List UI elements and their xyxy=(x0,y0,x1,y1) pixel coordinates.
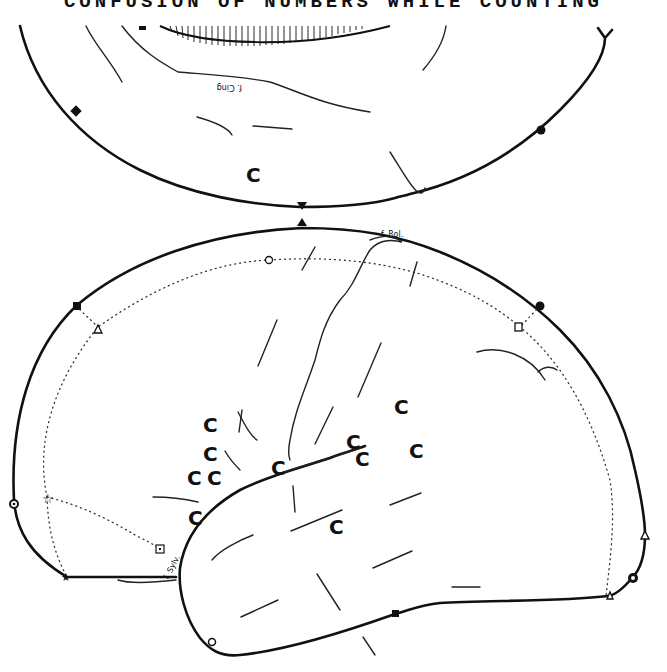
lateral-sulcus-6 xyxy=(238,412,257,440)
cingulate-fissure xyxy=(122,26,370,112)
fornix-mark xyxy=(139,26,146,30)
medial-outline xyxy=(20,26,612,207)
dotted-boundary-frontal xyxy=(47,497,160,549)
stimulation-point-c: C xyxy=(203,413,218,437)
filled-diamond-marker xyxy=(70,105,81,116)
medial-sulcus-1 xyxy=(86,26,122,82)
cingulate-fissure-label: f. Cing xyxy=(217,83,242,92)
open-circle-marker-bottom xyxy=(209,639,216,646)
star-circle-center xyxy=(631,576,635,580)
small-triangle-marker xyxy=(607,592,613,599)
medial-sulcus-2 xyxy=(423,26,446,70)
lateral-sulcus-7 xyxy=(225,451,240,470)
filled-triangle-up-marker xyxy=(297,218,307,226)
open-circle-marker xyxy=(266,257,273,264)
stimulation-point-c: C xyxy=(188,506,203,530)
rolandic-fissure-label: f. Rol. xyxy=(381,230,403,239)
open-square-marker xyxy=(515,323,522,331)
corpus-callosum-hatching xyxy=(160,26,390,46)
stimulation-point-c: C xyxy=(187,466,202,490)
stimulation-point-c: C xyxy=(246,163,261,187)
open-star-marker: ☆ xyxy=(42,491,54,506)
stimulation-point-c: C xyxy=(409,439,424,463)
lateral-sulcus-8 xyxy=(315,407,333,444)
lateral-sulcus-2 xyxy=(410,262,417,286)
dotted-square-center xyxy=(159,548,161,550)
lateral-hemisphere-view: f. Rol. f. Sylv. xyxy=(10,218,649,655)
stimulation-point-c: C xyxy=(355,447,370,471)
lateral-sulcus-3 xyxy=(258,320,277,366)
filled-circle-marker-lateral xyxy=(536,302,545,311)
filled-square-marker xyxy=(73,302,81,310)
temporal-sulcus-1 xyxy=(390,493,421,505)
medial-hemisphere-view: f. Cing C xyxy=(20,26,612,210)
temporal-sulcus-4 xyxy=(212,535,253,560)
medial-sulcus-4 xyxy=(253,126,292,129)
rolandic-fissure xyxy=(289,236,403,460)
lateral-outline-upper xyxy=(14,228,645,596)
filled-small-square-marker xyxy=(392,610,399,617)
stimulation-point-c: C xyxy=(329,515,344,539)
medial-sulcus-3 xyxy=(197,117,232,135)
stimulation-point-c: C xyxy=(203,442,218,466)
stimulation-point-c: C xyxy=(271,456,286,480)
temporal-sulcus-9 xyxy=(363,637,375,655)
stimulation-point-c: C xyxy=(207,466,222,490)
dotted-boundary-upper xyxy=(44,259,613,596)
brain-map-diagram: f. Cing C f. Rol. f. Sylv. xyxy=(0,0,667,672)
medial-parieto-occipital xyxy=(390,152,425,193)
lateral-sulcus-4 xyxy=(358,343,381,397)
lateral-outline-bottom xyxy=(180,446,608,655)
temporal-sulcus-2 xyxy=(293,486,295,512)
temporal-sulcus-5 xyxy=(317,574,340,610)
open-triangle-marker-right xyxy=(641,531,649,539)
stimulation-point-c: C xyxy=(394,395,409,419)
temporal-sulcus-6 xyxy=(373,551,412,568)
filled-circle-marker xyxy=(537,126,546,135)
lateral-outline-frontal-base xyxy=(14,500,176,577)
filled-star-marker: ★ xyxy=(61,571,71,584)
angular-sulcus xyxy=(477,350,557,380)
circled-dot-center xyxy=(13,503,16,506)
temporal-sulcus-8 xyxy=(241,600,278,617)
lateral-sulcus-9 xyxy=(153,497,198,502)
open-triangle-marker xyxy=(94,325,102,333)
